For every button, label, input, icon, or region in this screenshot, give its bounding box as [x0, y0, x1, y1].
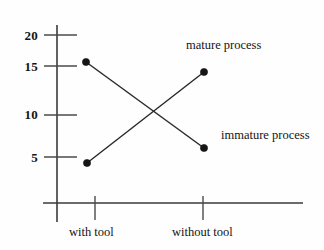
x-axis-tick-label-without-tool: without tool [172, 226, 233, 239]
x-axis-tick-label-with-tool: with tool [69, 226, 114, 239]
chart-canvas [0, 0, 324, 250]
series-annotation-immature-process: immature process [221, 129, 310, 142]
data-point-mature-without-tool [200, 68, 207, 75]
chart-figure: 20 15 10 5 with tool without tool mature… [0, 0, 324, 250]
y-axis-tick-label-20: 20 [8, 29, 38, 42]
y-axis-tick-label-15: 15 [8, 60, 38, 73]
data-point-mature-with-tool [83, 159, 90, 166]
series-line-immature-process [86, 62, 204, 148]
series-line-mature-process [87, 72, 204, 163]
y-axis-tick-label-10: 10 [8, 108, 38, 121]
data-point-immature-with-tool [82, 58, 89, 65]
data-point-immature-without-tool [200, 144, 207, 151]
series-annotation-mature-process: mature process [186, 39, 261, 52]
y-axis-tick-label-5: 5 [8, 151, 38, 164]
